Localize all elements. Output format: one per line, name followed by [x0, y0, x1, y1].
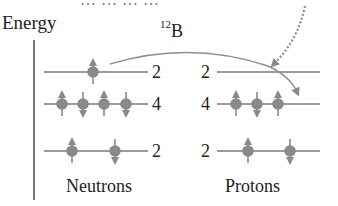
shell-diagram — [0, 0, 338, 206]
protons-label: Protons — [225, 176, 280, 197]
particle-spin-up — [57, 94, 67, 116]
neutron-level-middle-count: 4 — [152, 95, 161, 113]
proton-level-top-count: 2 — [201, 63, 210, 81]
particle-spin-down — [121, 92, 131, 114]
proton-levels — [217, 72, 320, 151]
proton-level-middle-count: 4 — [201, 95, 210, 113]
neutron-levels — [44, 72, 148, 151]
particle-spin-up — [88, 62, 98, 84]
particle-spin-down — [78, 92, 88, 114]
particle-spin-down — [252, 92, 262, 114]
proton-level-bottom-count: 2 — [201, 142, 210, 160]
dotted-pointer-arrow — [274, 6, 305, 64]
particle-spin-up — [243, 141, 253, 163]
particle-spin-up — [273, 94, 283, 116]
particle-spin-up — [231, 94, 241, 116]
neutrons-label: Neutrons — [66, 176, 132, 197]
proton-particles — [231, 92, 295, 163]
particle-spin-up — [99, 94, 109, 116]
neutron-particles — [57, 62, 131, 163]
particle-spin-down — [110, 139, 120, 161]
neutron-level-bottom-count: 2 — [152, 142, 161, 160]
particle-spin-down — [285, 139, 295, 161]
particle-spin-up — [67, 141, 77, 163]
neutron-level-top-count: 2 — [152, 63, 161, 81]
